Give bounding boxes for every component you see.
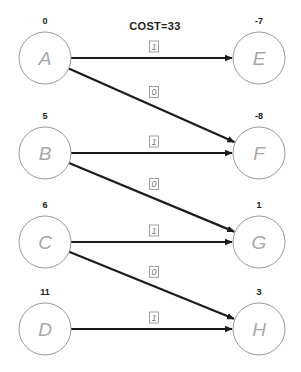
edge-weight-label: 0 bbox=[151, 179, 156, 189]
edge-a-e: 1 bbox=[71, 41, 232, 58]
node-label: H bbox=[252, 319, 266, 340]
edge-d-h: 1 bbox=[71, 312, 232, 329]
edge-b-g: 0 bbox=[69, 163, 234, 232]
edge-weight-label: 0 bbox=[151, 267, 156, 277]
edge-b-f: 1 bbox=[71, 136, 232, 153]
node-label: A bbox=[38, 48, 52, 69]
node-h: H3 bbox=[233, 287, 285, 355]
node-potential: -7 bbox=[255, 16, 263, 26]
node-label: G bbox=[252, 232, 267, 253]
node-e: E-7 bbox=[233, 16, 285, 84]
node-label: C bbox=[38, 232, 52, 253]
node-c: C6 bbox=[19, 200, 71, 268]
edge-arrow bbox=[69, 69, 235, 142]
node-label: F bbox=[253, 143, 266, 164]
edge-weight-label: 1 bbox=[151, 137, 156, 147]
node-potential: 5 bbox=[42, 111, 47, 121]
node-f: F-8 bbox=[233, 111, 285, 179]
node-label: E bbox=[253, 48, 266, 69]
edge-a-f: 0 bbox=[69, 69, 235, 142]
node-label: D bbox=[38, 319, 52, 340]
node-label: B bbox=[39, 143, 52, 164]
edge-weight-label: 1 bbox=[151, 42, 156, 52]
node-potential: 1 bbox=[256, 200, 261, 210]
node-potential: 11 bbox=[40, 287, 50, 297]
node-d: D11 bbox=[19, 287, 71, 355]
node-a: A0 bbox=[19, 16, 71, 84]
edge-arrow bbox=[69, 252, 234, 319]
node-potential: -8 bbox=[255, 111, 263, 121]
edge-weight-label: 1 bbox=[151, 226, 156, 236]
node-g: G1 bbox=[233, 200, 285, 268]
bipartite-matching-diagram: COST=33 1010101 A0B5C6D11E-7F-8G1H3 bbox=[0, 0, 301, 372]
edge-weight-label: 1 bbox=[151, 313, 156, 323]
node-potential: 3 bbox=[256, 287, 261, 297]
edge-c-g: 1 bbox=[71, 225, 232, 242]
edge-weight-label: 0 bbox=[151, 87, 156, 97]
edges-layer: 1010101 bbox=[69, 41, 235, 329]
node-b: B5 bbox=[19, 111, 71, 179]
edge-arrow bbox=[69, 163, 234, 232]
edge-c-h: 0 bbox=[69, 252, 234, 319]
cost-title: COST=33 bbox=[129, 20, 180, 32]
node-potential: 0 bbox=[42, 16, 47, 26]
node-potential: 6 bbox=[42, 200, 47, 210]
